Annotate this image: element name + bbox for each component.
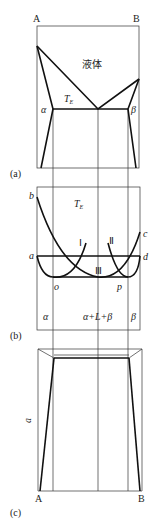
activity-line-B xyxy=(129,358,140,491)
panel-a-corner-A: A xyxy=(33,13,41,24)
panel-a-phase-diagram xyxy=(37,26,139,168)
panel-b-caption: (b) xyxy=(10,330,22,342)
corner-line-left xyxy=(38,349,54,358)
curve-I-alpha xyxy=(37,243,86,277)
point-d-label: d xyxy=(143,251,149,262)
panel-a-frame xyxy=(37,26,139,168)
curve-I-label: Ⅰ xyxy=(79,237,82,248)
liquidus-line xyxy=(37,46,139,109)
activity-line-A xyxy=(40,358,54,491)
point-c-label: c xyxy=(143,228,148,239)
panel-b-temp-label: TE xyxy=(74,198,84,210)
panel-a-caption: (a) xyxy=(10,168,21,180)
eutectic-phase-diagram-figure: A B 液体 TE α β (a) TE b c a d o p Ⅰ Ⅱ Ⅲ α… xyxy=(0,0,159,526)
panel-b-frame xyxy=(37,187,140,330)
beta-solvus-line xyxy=(128,79,139,168)
point-o-label: o xyxy=(54,281,59,292)
beta-phase-label: β xyxy=(130,104,136,115)
curve-III-liquid xyxy=(37,197,140,277)
panel-c-caption: (c) xyxy=(10,507,21,519)
point-b-label: b xyxy=(29,190,34,201)
panel-c-activity-diagram xyxy=(38,349,142,491)
curve-III-label: Ⅲ xyxy=(95,265,102,276)
panel-c-axis-label: a xyxy=(22,418,33,423)
region-alpha-label: α xyxy=(43,311,49,322)
liquid-region-label: 液体 xyxy=(82,58,102,70)
region-mix-label: α+L+β xyxy=(83,311,112,322)
panel-a-corner-B: B xyxy=(133,13,140,24)
alpha-phase-label: α xyxy=(41,104,47,115)
curve-II-beta xyxy=(108,243,140,277)
panel-c-corner-B: B xyxy=(138,493,145,504)
point-p-label: p xyxy=(116,281,122,292)
eutectic-temp-label: TE xyxy=(64,93,74,105)
corner-line-right xyxy=(129,349,142,358)
point-a-label: a xyxy=(29,250,34,261)
panel-b-free-energy-diagram xyxy=(37,187,140,330)
curve-II-label: Ⅱ xyxy=(109,235,114,246)
panel-c-corner-A: A xyxy=(35,493,43,504)
vertical-guide-lines xyxy=(53,109,128,491)
region-beta-label: β xyxy=(130,311,136,322)
